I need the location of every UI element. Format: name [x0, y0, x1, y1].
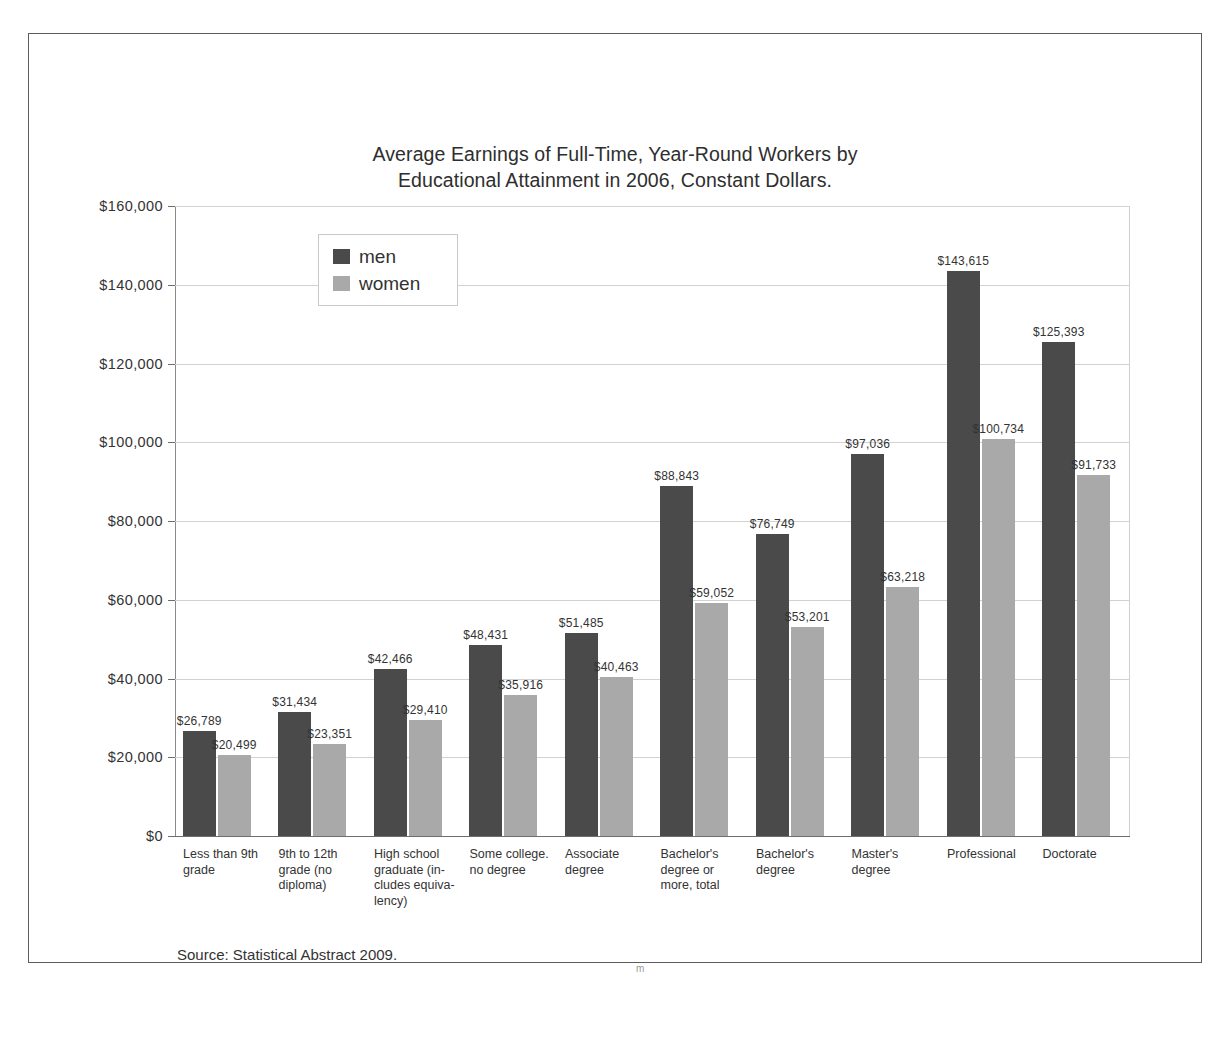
- x-tick-label-line: Bachelor's: [756, 847, 844, 863]
- bar-value-label: $31,434: [272, 695, 317, 709]
- x-tick-label-line: Doctorate: [1043, 847, 1131, 863]
- bar-value-label: $125,393: [1033, 325, 1085, 339]
- x-tick-label: Bachelor'sdegree ormore, total: [661, 847, 749, 894]
- bar-value-label: $100,734: [972, 422, 1024, 436]
- x-tick-label-line: cludes equiva-: [374, 878, 462, 894]
- bar-women: $53,201: [791, 627, 824, 836]
- bar-women: $29,410: [409, 720, 442, 836]
- bar-women: $20,499: [218, 755, 251, 836]
- x-tick-label-line: Bachelor's: [661, 847, 749, 863]
- y-tick-mark: [168, 757, 175, 758]
- x-tick-label-line: degree: [852, 863, 940, 879]
- legend-label-women: women: [359, 273, 420, 295]
- y-tick-label: $80,000: [108, 513, 163, 529]
- x-tick-label: Some college.no degree: [470, 847, 558, 878]
- bar-value-label: $143,615: [937, 254, 989, 268]
- bar-women: $40,463: [600, 677, 633, 836]
- y-tick-mark: [168, 836, 175, 837]
- bar-men: $88,843: [660, 486, 693, 836]
- bar-women: $100,734: [982, 439, 1015, 836]
- y-tick-label: $160,000: [99, 198, 163, 214]
- bar-men: $76,749: [756, 534, 789, 836]
- bar-group: $76,749$53,201: [748, 206, 844, 836]
- x-tick-label-line: degree: [756, 863, 844, 879]
- chart-title-line-1: Average Earnings of Full-Time, Year-Roun…: [29, 141, 1201, 167]
- bar-value-label: $35,916: [498, 678, 543, 692]
- legend-swatch-men-icon: [333, 249, 350, 264]
- bar-men: $125,393: [1042, 342, 1075, 836]
- x-tick-label-line: High school: [374, 847, 462, 863]
- bar-group: $26,789$20,499: [175, 206, 271, 836]
- y-tick-mark: [168, 285, 175, 286]
- chart-title-line-2: Educational Attainment in 2006, Constant…: [29, 167, 1201, 193]
- source-note: Source: Statistical Abstract 2009.: [177, 946, 397, 963]
- x-tick-label-line: Associate: [565, 847, 653, 863]
- bar-group: $125,393$91,733: [1035, 206, 1131, 836]
- bar-value-label: $88,843: [654, 469, 699, 483]
- y-tick-label: $20,000: [108, 749, 163, 765]
- x-tick-label-line: diploma): [279, 878, 367, 894]
- x-tick-label: Professional: [947, 847, 1035, 863]
- y-tick-mark: [168, 442, 175, 443]
- bar-value-label: $76,749: [750, 517, 795, 531]
- bar-women: $23,351: [313, 744, 346, 836]
- legend-swatch-women-icon: [333, 276, 350, 291]
- y-tick-mark: [168, 679, 175, 680]
- plot-wrap: $0$20,000$40,000$60,000$80,000$100,000$1…: [175, 206, 1130, 836]
- bar-men: $48,431: [469, 645, 502, 836]
- y-tick-mark: [168, 600, 175, 601]
- y-tick-label: $60,000: [108, 592, 163, 608]
- x-tick-label-line: degree or: [661, 863, 749, 879]
- x-tick-label: Bachelor'sdegree: [756, 847, 844, 878]
- x-tick-label-line: no degree: [470, 863, 558, 879]
- y-tick-mark: [168, 364, 175, 365]
- bar-value-label: $91,733: [1071, 458, 1116, 472]
- x-tick-label-line: graduate (in-: [374, 863, 462, 879]
- bar-value-label: $97,036: [845, 437, 890, 451]
- bar-value-label: $20,499: [212, 738, 257, 752]
- bar-value-label: $53,201: [785, 610, 830, 624]
- x-tick-label-line: more, total: [661, 878, 749, 894]
- bar-men: $97,036: [851, 454, 884, 836]
- bar-value-label: $51,485: [559, 616, 604, 630]
- y-tick-label: $0: [146, 828, 163, 844]
- y-tick-label: $40,000: [108, 671, 163, 687]
- x-tick-label: Master'sdegree: [852, 847, 940, 878]
- bar-group: $97,036$63,218: [844, 206, 940, 836]
- x-tick-label: 9th to 12thgrade (nodiploma): [279, 847, 367, 894]
- legend: men women: [318, 234, 458, 306]
- page-frame: Average Earnings of Full-Time, Year-Roun…: [28, 33, 1202, 963]
- x-tick-label: Doctorate: [1043, 847, 1131, 863]
- bar-value-label: $40,463: [594, 660, 639, 674]
- bar-group: $48,431$35,916: [462, 206, 558, 836]
- bar-women: $59,052: [695, 603, 728, 836]
- gridline: [175, 836, 1130, 837]
- x-tick-label-line: Professional: [947, 847, 1035, 863]
- bar-men: $143,615: [947, 271, 980, 836]
- x-tick-label: High schoolgraduate (in-cludes equiva-le…: [374, 847, 462, 909]
- bar-value-label: $23,351: [307, 727, 352, 741]
- y-tick-mark: [168, 521, 175, 522]
- bar-women: $91,733: [1077, 475, 1110, 836]
- bar-value-label: $29,410: [403, 703, 448, 717]
- x-tick-label: Less than 9thgrade: [183, 847, 271, 878]
- x-tick-label-line: Some college.: [470, 847, 558, 863]
- y-tick-mark: [168, 206, 175, 207]
- x-tick-label-line: grade (no: [279, 863, 367, 879]
- x-tick-label: Associatedegree: [565, 847, 653, 878]
- bar-value-label: $26,789: [177, 714, 222, 728]
- legend-item-men: men: [333, 243, 457, 270]
- y-tick-label: $120,000: [99, 356, 163, 372]
- bar-group: $51,485$40,463: [557, 206, 653, 836]
- bar-men: $51,485: [565, 633, 598, 836]
- bar-value-label: $48,431: [463, 628, 508, 642]
- bar-group: $88,843$59,052: [653, 206, 749, 836]
- chart-title: Average Earnings of Full-Time, Year-Roun…: [29, 141, 1201, 193]
- x-tick-label-line: Master's: [852, 847, 940, 863]
- bar-men: $26,789: [183, 731, 216, 836]
- bar-value-label: $42,466: [368, 652, 413, 666]
- bar-women: $63,218: [886, 587, 919, 836]
- bar-value-label: $59,052: [689, 586, 734, 600]
- bar-men: $42,466: [374, 669, 407, 836]
- legend-label-men: men: [359, 246, 396, 268]
